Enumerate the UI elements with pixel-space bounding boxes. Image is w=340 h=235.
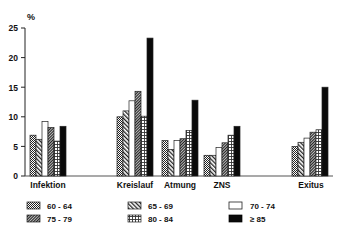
- bar: [129, 101, 135, 176]
- bar: [36, 139, 42, 176]
- y-tick-label: 5: [13, 142, 18, 152]
- y-tick-label: 15: [9, 83, 19, 93]
- bar: [123, 111, 129, 176]
- category-label-kreislauf: Kreislauf: [117, 180, 154, 190]
- y-tick-label: 10: [9, 112, 19, 122]
- bar: [174, 141, 180, 177]
- bar-group-zns: [204, 126, 240, 176]
- bar: [135, 91, 141, 176]
- bar: [192, 100, 198, 176]
- bar-group-exitus: [292, 87, 328, 176]
- bar: [322, 87, 328, 176]
- bar: [216, 148, 222, 176]
- bar: [298, 142, 304, 176]
- bar: [54, 141, 60, 176]
- bar: [310, 132, 316, 176]
- bar: [204, 155, 210, 176]
- category-label-infektion: Infektion: [30, 180, 65, 190]
- bar: [168, 149, 174, 176]
- bar: [222, 143, 228, 176]
- bar: [117, 117, 123, 176]
- legend-swatch-80-84: [128, 215, 141, 222]
- legend-swatch-60-64: [27, 202, 40, 209]
- bar: [228, 135, 234, 176]
- category-label-exitus: Exitus: [298, 180, 324, 190]
- legend-swatch-75-79: [27, 215, 40, 222]
- bar: [292, 146, 298, 176]
- legend-label: ≥ 85: [250, 215, 266, 224]
- bar: [180, 139, 186, 176]
- legend: 60 - 64 65 - 69 70 - 74 75 - 79 80 - 84 …: [27, 202, 275, 224]
- legend-label: 65 - 69: [148, 202, 173, 211]
- bar: [147, 38, 153, 176]
- y-tick-label: 0: [13, 171, 18, 181]
- bar-group-kreislauf: [117, 38, 153, 176]
- y-ticks: 0 5 10 15 20 25: [9, 23, 25, 181]
- y-tick-label: 25: [9, 23, 19, 33]
- bar-group-infektion: [30, 122, 66, 177]
- bar: [210, 155, 216, 176]
- bar: [30, 135, 36, 176]
- y-tick-label: 20: [9, 53, 19, 63]
- bar: [141, 116, 147, 176]
- category-label-zns: ZNS: [214, 180, 231, 190]
- y-axis-unit: %: [27, 12, 35, 22]
- bar-chart: % 0 5 10 15 20 25 Infektion Kreislauf At…: [0, 0, 340, 235]
- bar: [186, 130, 192, 176]
- legend-label: 70 - 74: [250, 202, 275, 211]
- legend-label: 75 - 79: [47, 215, 72, 224]
- bar-group-atmung: [162, 100, 198, 176]
- bar: [316, 130, 322, 176]
- legend-swatch-85-plus: [229, 215, 242, 222]
- legend-label: 80 - 84: [148, 215, 173, 224]
- bar: [42, 122, 48, 177]
- bar: [60, 126, 66, 176]
- bar-groups: [30, 38, 328, 176]
- legend-swatch-65-69: [128, 202, 141, 209]
- bar: [48, 128, 54, 177]
- bar: [304, 138, 310, 176]
- category-label-atmung: Atmung: [164, 180, 196, 190]
- bar: [234, 126, 240, 176]
- bar: [162, 141, 168, 177]
- legend-swatch-70-74: [229, 202, 242, 209]
- legend-label: 60 - 64: [47, 202, 72, 211]
